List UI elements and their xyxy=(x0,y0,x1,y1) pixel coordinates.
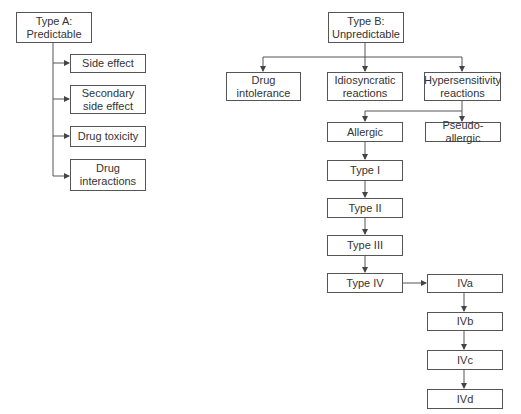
drug-label: Drug xyxy=(80,162,136,175)
type-b-label: Type B: xyxy=(332,15,400,28)
type-b-unpredictable-box: Type B:Unpredictable xyxy=(328,12,404,43)
type-a-predictable-box: Type A:Predictable xyxy=(16,12,92,43)
hypersensitivity-label: Hypersensitivity xyxy=(424,74,501,87)
predictable-label: Predictable xyxy=(26,28,81,41)
interactions-label: interactions xyxy=(80,175,136,188)
type-iv-box: Type IV xyxy=(327,273,403,293)
intolerance-label: intolerance xyxy=(237,87,291,100)
side-effect-box: Side effect xyxy=(70,54,146,73)
drug-intolerance-box: Drugintolerance xyxy=(226,72,301,101)
side-effect-label-2: side effect xyxy=(82,100,135,113)
drug-toxicity-label: Drug toxicity xyxy=(78,130,139,143)
type-ii-box: Type II xyxy=(327,198,403,218)
drug-toxicity-box: Drug toxicity xyxy=(70,126,146,147)
type-iii-label: Type III xyxy=(347,239,383,252)
side-effect-label: Side effect xyxy=(82,57,134,70)
pseudo-allergic-label: Pseudo-allergic xyxy=(426,119,500,145)
ivc-box: IVc xyxy=(427,350,503,370)
iva-label: IVa xyxy=(457,277,473,290)
adr-classification-diagram: Type A:Predictable Side effect Secondary… xyxy=(0,0,521,414)
unpredictable-label: Unpredictable xyxy=(332,28,400,41)
secondary-label: Secondary xyxy=(82,87,135,100)
idiosyncratic-label: Idiosyncratic xyxy=(334,74,395,87)
type-i-box: Type I xyxy=(327,160,403,181)
ivc-label: IVc xyxy=(457,354,473,367)
type-iv-label: Type IV xyxy=(346,277,383,290)
allergic-box: Allergic xyxy=(327,122,403,142)
hypersensitivity-reactions-box: Hypersensitivityreactions xyxy=(424,72,501,101)
type-i-label: Type I xyxy=(350,164,380,177)
reactions-label-2: reactions xyxy=(424,87,501,100)
secondary-side-effect-box: Secondaryside effect xyxy=(70,85,146,114)
drug-label-b: Drug xyxy=(237,74,291,87)
type-iii-box: Type III xyxy=(327,235,403,256)
idiosyncratic-reactions-box: Idiosyncraticreactions xyxy=(327,72,403,101)
type-a-label: Type A: xyxy=(26,15,81,28)
ivb-box: IVb xyxy=(427,312,503,331)
allergic-label: Allergic xyxy=(347,126,383,139)
type-ii-label: Type II xyxy=(348,202,381,215)
ivd-label: IVd xyxy=(457,393,474,406)
drug-interactions-box: Druginteractions xyxy=(70,159,146,191)
ivd-box: IVd xyxy=(427,389,503,409)
ivb-label: IVb xyxy=(457,315,474,328)
iva-box: IVa xyxy=(427,274,503,293)
reactions-label: reactions xyxy=(334,87,395,100)
pseudo-allergic-box: Pseudo-allergic xyxy=(425,122,501,142)
